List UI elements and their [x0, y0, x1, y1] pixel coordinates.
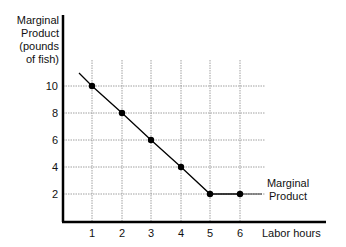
svg-text:3: 3: [148, 227, 154, 239]
svg-text:Marginal: Marginal: [267, 177, 309, 189]
y-tick-labels: 10 8 6 4 2: [46, 80, 58, 200]
marginal-product-line: [79, 73, 240, 194]
svg-text:2: 2: [119, 227, 125, 239]
svg-text:4: 4: [178, 227, 184, 239]
svg-text:10: 10: [46, 80, 58, 92]
svg-text:Product: Product: [21, 27, 59, 39]
svg-text:6: 6: [52, 134, 58, 146]
y-axis-label: Marginal Product (pounds of fish): [17, 14, 60, 65]
svg-text:5: 5: [207, 227, 213, 239]
svg-text:6: 6: [237, 227, 243, 239]
svg-text:8: 8: [52, 107, 58, 119]
svg-text:(pounds: (pounds: [19, 40, 59, 52]
series-annotation: Marginal Product: [267, 177, 309, 202]
svg-text:2: 2: [52, 188, 58, 200]
vertical-gridlines: [92, 60, 240, 222]
svg-text:4: 4: [52, 161, 58, 173]
svg-text:1: 1: [89, 227, 95, 239]
svg-text:of fish): of fish): [26, 53, 59, 65]
x-axis-label: Labor hours: [262, 227, 321, 239]
x-tick-labels: 1 2 3 4 5 6: [89, 227, 243, 239]
horizontal-gridlines: [63, 86, 265, 194]
svg-text:Product: Product: [269, 190, 307, 202]
marginal-product-chart: 10 8 6 4 2 1 2 3 4 5 6 Marginal Product …: [0, 0, 346, 247]
svg-text:Marginal: Marginal: [17, 14, 59, 26]
